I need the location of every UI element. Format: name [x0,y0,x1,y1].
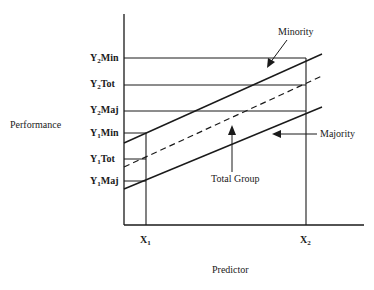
total-arrowhead-icon [228,125,236,135]
y-axis-title: Performance [10,119,61,130]
minority-arrowhead-icon [267,58,275,68]
majority-arrowhead-icon [272,130,281,138]
majority-label: Majority [320,128,355,139]
tick-y2maj: Y2Maj [90,104,119,117]
regression-diagram [0,0,374,290]
x-axis-title: Predictor [212,264,249,275]
tick-x1: X1 [140,234,151,247]
minority-label: Minority [278,26,314,37]
tick-y1min: Y1Min [90,127,119,140]
tick-y2min: Y2Min [90,52,119,65]
total-regression-line [124,76,322,167]
minority-arrow [270,40,287,63]
tick-y2tot: Y2Tot [90,78,115,91]
total-group-label: Total Group [211,173,259,184]
minority-regression-line [124,54,322,143]
tick-y1tot: Y1Tot [90,153,115,166]
tick-y1maj: Y1Maj [90,175,119,188]
tick-x2: X2 [300,234,311,247]
